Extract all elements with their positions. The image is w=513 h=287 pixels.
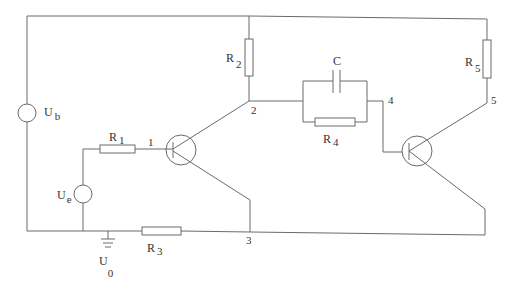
wire-r1 xyxy=(83,149,173,185)
label-ub: Ub xyxy=(44,105,61,122)
label-c: C xyxy=(333,54,341,68)
wire-top-rail xyxy=(27,16,487,19)
ground-icon xyxy=(101,231,115,247)
wire-node4-t2-base xyxy=(367,101,409,152)
wire-rc-network xyxy=(303,81,367,122)
node-4-label: 4 xyxy=(388,94,394,106)
wire-t1-collector xyxy=(173,101,249,149)
label-ue: Ue xyxy=(57,188,72,205)
voltage-source-ub xyxy=(18,104,36,122)
transistor-t1 xyxy=(166,135,196,165)
label-r4: R4 xyxy=(323,132,339,148)
circuit-diagram: Ub R2 2 C R4 4 R5 5 3 R1 1 Ue R3 U0 xyxy=(0,0,513,287)
transistor-t2 xyxy=(402,136,432,166)
node-1-label: 1 xyxy=(148,136,154,148)
label-r2: R2 xyxy=(226,51,242,70)
resistor-r5 xyxy=(483,40,491,78)
label-u0: U0 xyxy=(99,254,114,279)
label-r5: R5 xyxy=(465,55,481,74)
label-r3: R3 xyxy=(147,241,163,257)
wire-bottom-rail xyxy=(27,231,250,232)
label-r1: R1 xyxy=(109,130,125,146)
resistor-r3 xyxy=(142,227,181,235)
wire-t2-emitter xyxy=(250,151,485,235)
node-3-label: 3 xyxy=(246,234,252,246)
node-2-label: 2 xyxy=(251,104,257,116)
wire-t2-collector xyxy=(409,103,487,151)
resistor-r2 xyxy=(245,39,253,76)
resistor-r1 xyxy=(100,145,135,153)
resistor-r4 xyxy=(315,118,355,126)
node-5-label: 5 xyxy=(491,94,497,106)
voltage-source-ue xyxy=(74,185,92,203)
